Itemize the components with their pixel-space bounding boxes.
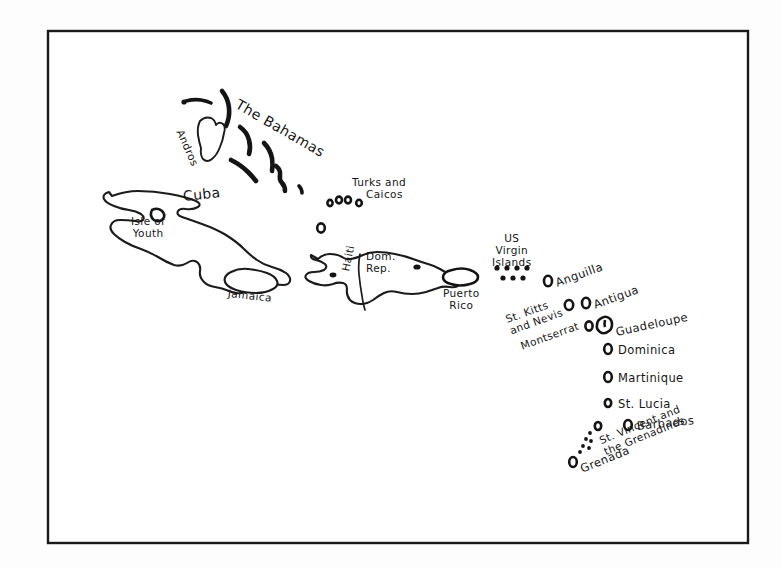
cay-turks-4 bbox=[356, 200, 362, 206]
cay-grenadines-5 bbox=[587, 446, 591, 450]
label-dominica: Dominica bbox=[618, 344, 675, 357]
island-dominica bbox=[604, 344, 612, 354]
label-turks-and-caicos-line2: Caicos bbox=[352, 188, 406, 200]
cay-grenadines-3 bbox=[589, 439, 593, 443]
lake-haiti bbox=[330, 273, 337, 278]
label-us-virgin-islands-line2: Virgin bbox=[492, 244, 532, 256]
cay-usvi-5 bbox=[500, 275, 505, 280]
island-puerto-rico bbox=[443, 269, 478, 286]
label-dominican-republic-line1: Dom. bbox=[366, 250, 396, 262]
map-drawing bbox=[0, 0, 781, 568]
island-guadeloupe bbox=[597, 317, 612, 334]
label-us-virgin-islands-line1: US bbox=[492, 232, 532, 244]
label-us-virgin-islands: US Virgin Islands bbox=[492, 232, 532, 268]
label-turks-and-caicos-line1: Turks and bbox=[352, 176, 406, 188]
cay-turks-2 bbox=[336, 197, 342, 204]
cay-grenadines-2 bbox=[584, 437, 588, 441]
map-canvas: The Bahamas Andros Cuba Isle of Youth Ja… bbox=[0, 0, 781, 568]
island-antigua bbox=[582, 298, 590, 308]
label-puerto-rico-line2: Rico bbox=[443, 299, 480, 311]
cay-turks-5 bbox=[317, 223, 325, 232]
cay-grenadines-1 bbox=[588, 431, 592, 435]
cay-usvi-7 bbox=[520, 275, 525, 280]
bay-samana bbox=[413, 264, 420, 269]
label-dominican-republic: Dom. Rep. bbox=[366, 250, 396, 274]
label-isle-of-youth-line2: Youth bbox=[131, 227, 165, 239]
island-montserrat bbox=[585, 321, 592, 330]
island-st-kitts-and-nevis bbox=[565, 300, 573, 310]
cay-grand-bahama-tip bbox=[181, 99, 186, 104]
island-martinique bbox=[604, 372, 612, 382]
label-puerto-rico-line1: Puerto bbox=[443, 287, 480, 299]
cay-grenadines-4 bbox=[581, 444, 585, 448]
label-dominican-republic-line2: Rep. bbox=[366, 262, 396, 274]
cay-grenadines-6 bbox=[578, 450, 582, 454]
label-isle-of-youth: Isle of Youth bbox=[131, 215, 165, 239]
island-anguilla bbox=[544, 276, 552, 286]
cay-turks-3 bbox=[345, 197, 351, 204]
cay-usvi-6 bbox=[510, 275, 515, 280]
cay-turks-1 bbox=[327, 200, 332, 206]
label-us-virgin-islands-line3: Islands bbox=[492, 256, 532, 268]
island-grenada bbox=[569, 457, 577, 467]
label-puerto-rico: Puerto Rico bbox=[443, 287, 480, 311]
label-turks-and-caicos: Turks and Caicos bbox=[352, 176, 406, 200]
label-martinique: Martinique bbox=[618, 372, 684, 385]
label-isle-of-youth-line1: Isle of bbox=[131, 215, 165, 227]
island-st-lucia bbox=[605, 399, 611, 407]
island-st-vincent bbox=[595, 422, 601, 430]
